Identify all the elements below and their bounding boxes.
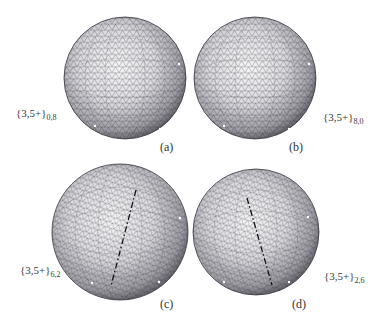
symbol-label-c: {3,5+}6,2: [20, 264, 61, 279]
panel-caption-a: (a): [160, 140, 173, 155]
sphere-c: [48, 160, 193, 305]
sphere-a: [60, 14, 190, 144]
symbol-label-d: {3,5+}2,6: [324, 270, 365, 285]
sphere-d: [190, 166, 325, 301]
panel-caption-c: (c): [160, 297, 173, 312]
sphere-b: [190, 14, 320, 144]
panel-caption-d: (d): [292, 297, 306, 312]
symbol-label-a: {3,5+}0,8: [16, 107, 57, 122]
panel-caption-b: (b): [289, 140, 303, 155]
symbol-label-b: {3,5+}8,0: [323, 111, 364, 126]
